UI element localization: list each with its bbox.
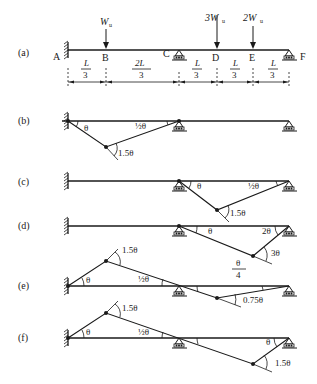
panel-c: (c) θ ½θ 1.5θ: [18, 172, 297, 222]
svg-text:3: 3: [232, 70, 237, 80]
load-arrow-D: 3W u: [204, 12, 225, 49]
node-C: C: [163, 48, 170, 59]
svg-text:θ: θ: [208, 226, 212, 236]
svg-text:1.5θ: 1.5θ: [230, 208, 246, 218]
span-CD: L 3: [192, 58, 202, 80]
svg-text:1.5θ: 1.5θ: [275, 358, 291, 368]
roller-support-icon: [282, 286, 297, 296]
svg-text:θ: θ: [197, 181, 201, 191]
svg-text:θ: θ: [266, 337, 270, 347]
roller-support-icon: [282, 121, 297, 131]
svg-text:L: L: [270, 58, 276, 68]
svg-text:u: u: [109, 22, 112, 28]
svg-text:θ: θ: [84, 123, 88, 133]
collapse-mechanism-diagram: (a) A B C D E F W u 3W u 2W u: [0, 0, 317, 384]
svg-text:θ: θ: [86, 275, 90, 285]
svg-text:1.5θ: 1.5θ: [118, 148, 134, 158]
fixed-support-icon: [64, 41, 68, 59]
svg-text:0.75θ: 0.75θ: [243, 295, 263, 305]
node-E: E: [249, 52, 255, 63]
svg-text:θ: θ: [236, 258, 240, 268]
svg-text:3: 3: [194, 70, 199, 80]
load-arrow-B: W u: [100, 16, 112, 49]
svg-text:2θ: 2θ: [262, 226, 271, 236]
svg-text:θ: θ: [86, 327, 90, 337]
load-arrow-E: 2W u: [243, 12, 263, 49]
node-A: A: [53, 51, 61, 62]
fixed-support-icon: [64, 217, 68, 235]
node-D: D: [212, 52, 219, 63]
svg-text:½θ: ½θ: [248, 181, 259, 191]
svg-text:L: L: [194, 58, 200, 68]
collapse-mechanism: [179, 181, 289, 210]
svg-text:1.5θ: 1.5θ: [122, 303, 138, 313]
span-AB: L 3: [81, 58, 91, 80]
roller-support-icon: [172, 338, 187, 348]
span-DE: L 3: [230, 58, 240, 80]
span-EF: L 3: [268, 58, 278, 80]
svg-text:2W: 2W: [243, 12, 258, 23]
panel-e-label: (e): [18, 280, 29, 292]
svg-text:u: u: [260, 18, 263, 24]
svg-text:3: 3: [139, 70, 144, 80]
roller-support-icon: [282, 338, 297, 348]
svg-text:L: L: [232, 58, 238, 68]
panel-a-label: (a): [18, 47, 29, 59]
fixed-support-icon: [64, 172, 68, 190]
svg-text:½θ: ½θ: [135, 121, 146, 131]
panel-d: (d) θ 2θ 3θ: [18, 217, 297, 264]
panel-b-label: (b): [18, 115, 30, 127]
svg-text:1.5θ: 1.5θ: [122, 245, 138, 255]
svg-text:L: L: [83, 58, 89, 68]
panel-a: (a) A B C D E F W u 3W u 2W u: [18, 12, 306, 86]
panel-b: (b) θ ½θ 1.5θ: [18, 112, 297, 160]
node-B: B: [102, 52, 109, 63]
panel-d-label: (d): [18, 220, 30, 232]
roller-support-icon: [172, 50, 187, 60]
span-BC: 2L 3: [132, 58, 151, 80]
svg-text:3: 3: [83, 70, 88, 80]
panel-c-label: (c): [18, 176, 29, 188]
svg-text:½θ: ½θ: [138, 327, 149, 337]
svg-text:2L: 2L: [135, 58, 145, 68]
svg-text:3: 3: [270, 70, 275, 80]
svg-text:4: 4: [236, 270, 241, 280]
panel-f-label: (f): [18, 332, 28, 344]
svg-text:3W: 3W: [204, 12, 220, 23]
roller-support-icon: [282, 50, 297, 60]
dimension-line: [68, 68, 289, 86]
svg-text:3θ: 3θ: [271, 248, 280, 258]
node-F: F: [300, 51, 306, 62]
panel-f: (f) 1.5θ θ ½θ θ 1.5θ: [18, 301, 297, 372]
svg-text:u: u: [222, 18, 225, 24]
svg-text:½θ: ½θ: [138, 274, 149, 284]
roller-support-icon: [282, 226, 297, 236]
